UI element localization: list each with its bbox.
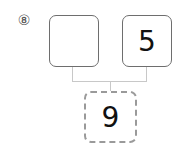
whole-box-nine: 9 <box>84 91 137 143</box>
line-left-vertical <box>72 67 73 81</box>
problem-number: ⑧ <box>16 12 32 28</box>
part-box-five: 5 <box>122 15 172 67</box>
line-center-vertical <box>110 81 111 91</box>
answer-box-empty[interactable] <box>49 15 99 67</box>
line-right-vertical <box>146 67 147 81</box>
